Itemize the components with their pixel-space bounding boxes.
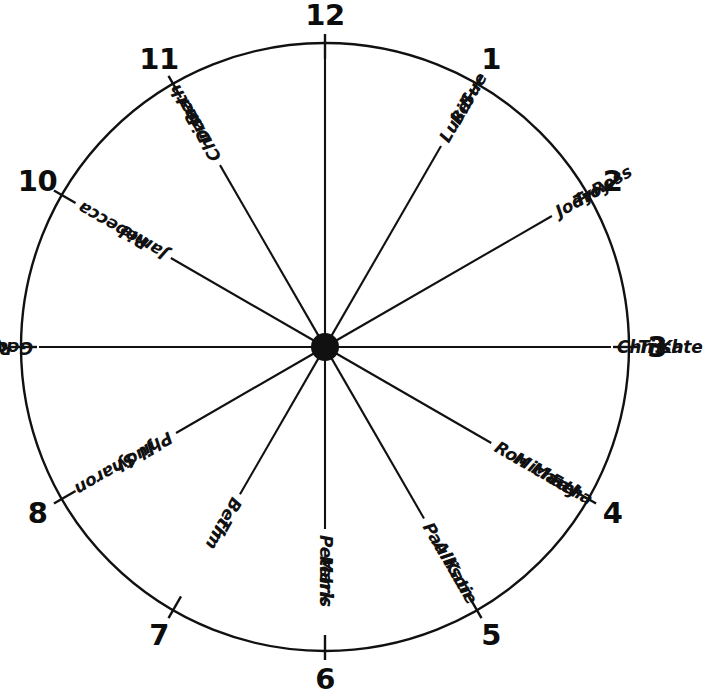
spoke-2 [335,216,552,341]
spoke-5 [331,357,424,518]
spoke-7 [240,357,319,494]
hour-numeral-5: 5 [481,620,501,649]
hour-numeral-11: 11 [139,45,178,74]
hour-numeral-6: 6 [315,665,335,694]
center-hub [311,333,339,361]
spoke-name-3-kate: Kate [659,339,703,356]
spoke-8 [176,353,315,433]
spoke-10 [171,258,315,341]
hour-numeral-8: 8 [28,499,48,528]
spoke-11 [220,165,319,336]
spoke-name-6-iris: Iris [317,577,334,607]
spoke-1 [331,146,441,337]
hour-numeral-12: 12 [305,1,344,30]
spoke-name-9-ruby: Ruby [0,339,12,356]
spoke-4 [335,353,491,443]
hour-numeral-10: 10 [18,167,57,196]
hour-numeral-7: 7 [149,620,169,649]
hour-numeral-1: 1 [481,45,501,74]
hour-numeral-4: 4 [603,499,623,528]
